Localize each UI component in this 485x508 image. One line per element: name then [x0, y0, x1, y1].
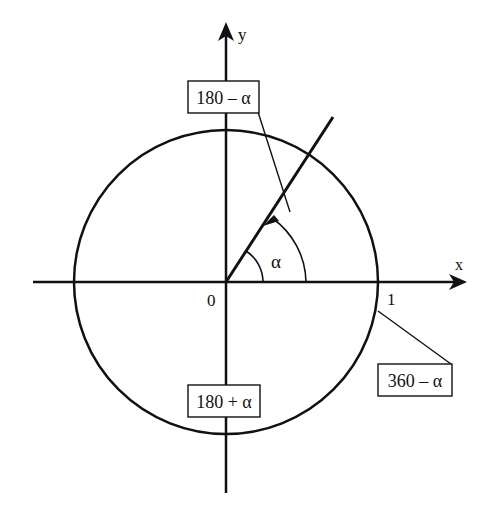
angle-alpha-label: α [271, 251, 281, 272]
box-label-360-minus-alpha: 360 – α [388, 371, 443, 391]
angle-arc-inner [246, 251, 263, 282]
origin-label: 0 [207, 291, 216, 310]
y-axis-label: y [238, 25, 247, 44]
unit-label: 1 [387, 290, 396, 309]
angle-arc-outer [272, 218, 306, 282]
box-label-180-plus-alpha: 180 + α [196, 392, 252, 412]
unit-circle-diagram: 180 – α 180 + α 360 – α x y 0 1 α [0, 0, 485, 508]
leader-line-q2 [258, 112, 290, 212]
x-axis-label: x [455, 256, 463, 273]
box-label-180-minus-alpha: 180 – α [196, 88, 251, 108]
leader-line-q4 [378, 311, 451, 364]
